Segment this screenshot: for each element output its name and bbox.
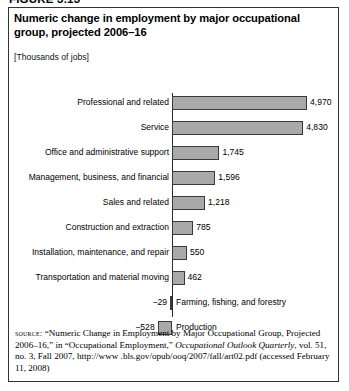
bar-row: Office and administrative support1,745 [0, 143, 339, 168]
source-journal-title: Occupational Outlook Quarterly [175, 340, 294, 350]
bar-value-label: 550 [190, 247, 204, 258]
bar-category-label: Management, business, and financial [29, 172, 169, 183]
bar-row: Management, business, and financial1,596 [0, 168, 339, 193]
bar [172, 221, 193, 235]
bar-value-label: 1,596 [218, 172, 240, 183]
source-label: source: [15, 328, 42, 338]
bar-value-label: 4,830 [306, 122, 328, 133]
bar-row: Professional and related4,970 [0, 93, 339, 118]
bar-value-label: 785 [196, 222, 210, 233]
bar-chart-plot-area: Professional and related4,970Service4,83… [0, 93, 339, 321]
chart-title: Numeric change in employment by major oc… [14, 12, 314, 39]
bar [172, 121, 303, 135]
chart-units-label: [Thousands of jobs] [14, 52, 89, 62]
bar-row: Installation, maintenance, and repair550 [0, 243, 339, 268]
source-line-1: “Numeric Change in Employment by Major O… [42, 328, 255, 338]
bar-category-label: Farming, fishing, and forestry [176, 297, 286, 308]
bar-category-label: Installation, maintenance, and repair [32, 247, 169, 258]
figure-number: FIGURE 3.13 [9, 0, 80, 5]
bar-category-label: Sales and related [103, 197, 169, 208]
bar-value-label: 462 [188, 272, 202, 283]
bar-category-label: Office and administrative support [45, 147, 169, 158]
bar-value-label: −29 [152, 297, 167, 308]
bar [172, 146, 219, 160]
bar [172, 246, 187, 260]
bar-value-label: 4,970 [310, 97, 332, 108]
bar-row: Farming, fishing, and forestry−29 [0, 293, 339, 318]
bar [172, 196, 205, 210]
bar-category-label: Transportation and material moving [36, 272, 169, 283]
bar [172, 96, 307, 110]
bar-row: Transportation and material moving462 [0, 268, 339, 293]
source-note: source: “Numeric Change in Employment by… [15, 328, 331, 374]
bar-value-label: 1,745 [222, 147, 244, 158]
bar [172, 171, 215, 185]
bar-value-label: 1,218 [208, 197, 230, 208]
bar-category-label: Professional and related [77, 97, 169, 108]
bar [172, 271, 185, 285]
bar-row: Service4,830 [0, 118, 339, 143]
bar [170, 296, 172, 310]
bar-row: Sales and related1,218 [0, 193, 339, 218]
bar-row: Construction and extraction785 [0, 218, 339, 243]
bar-category-label: Construction and extraction [66, 222, 169, 233]
bar-category-label: Service [141, 122, 169, 133]
